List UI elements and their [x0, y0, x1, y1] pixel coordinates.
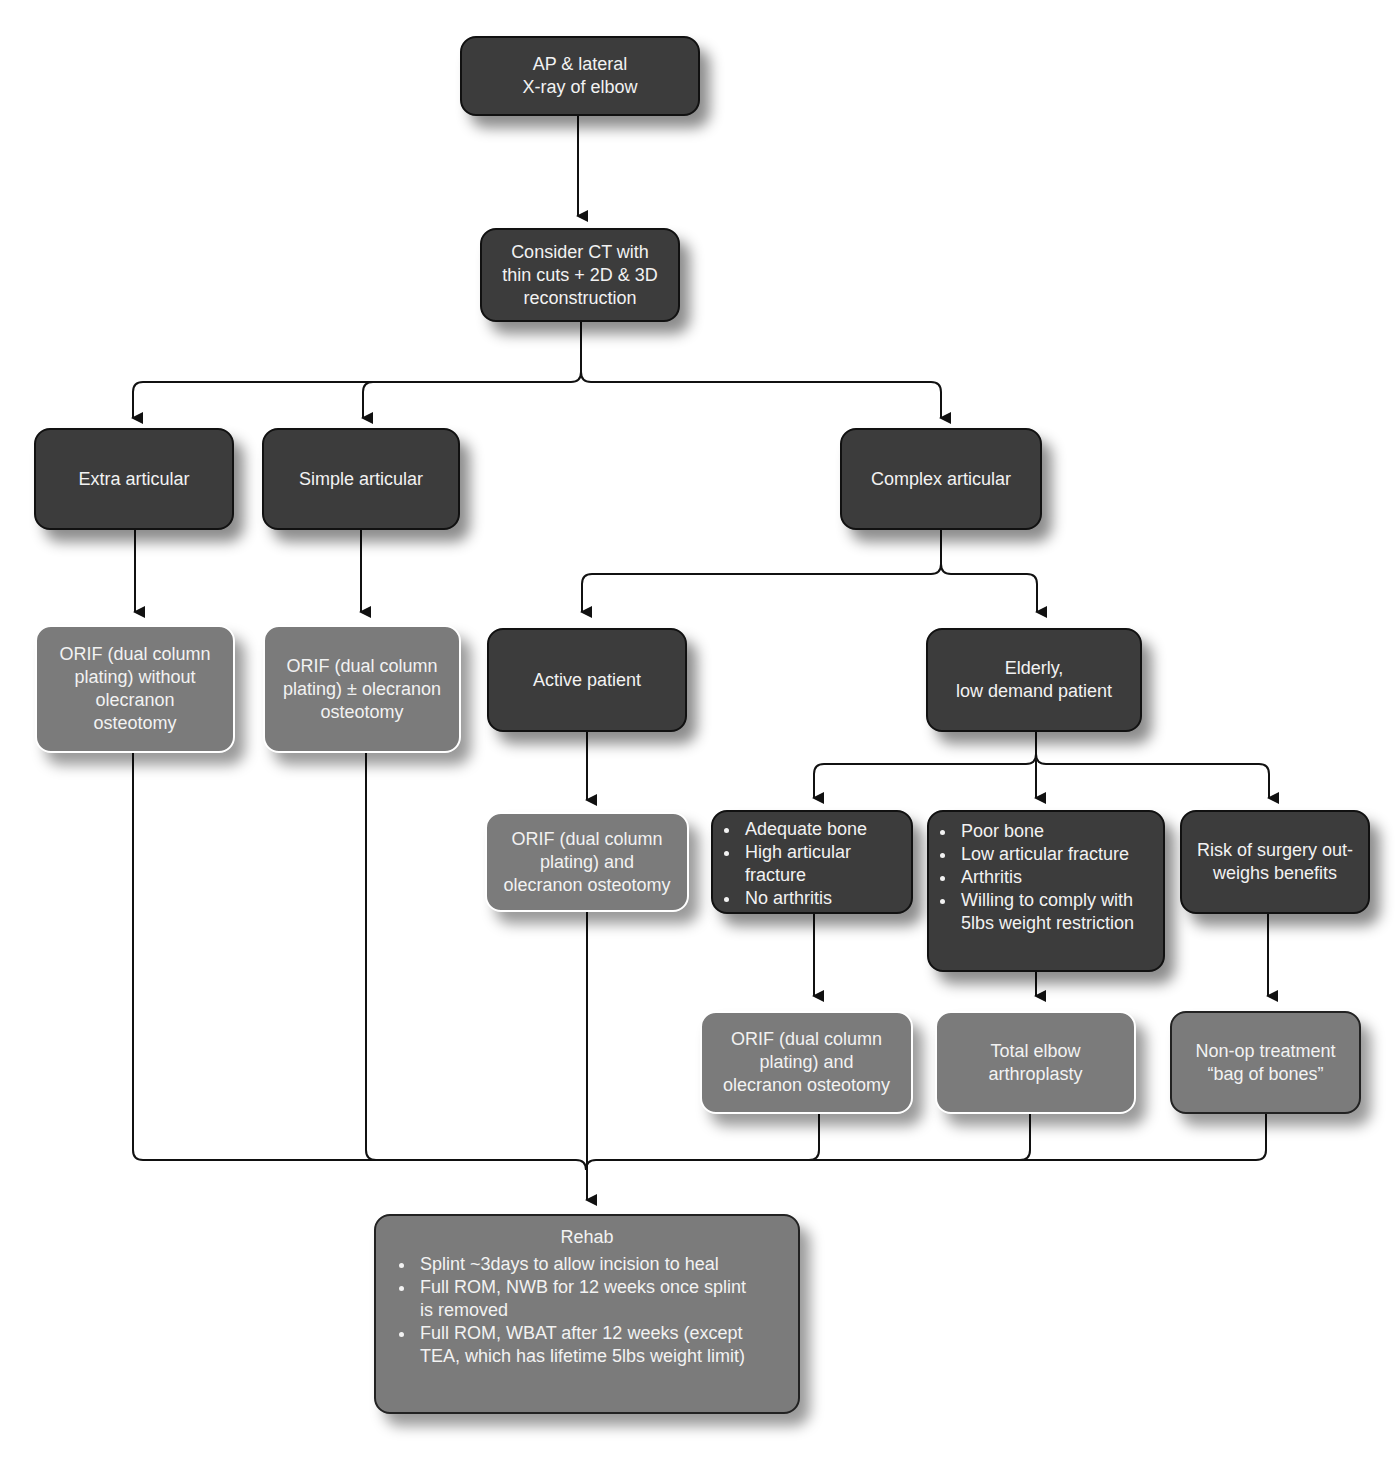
node-orif-and-elderly-line-2: plating) and — [723, 1051, 890, 1074]
list-item: Full ROM, NWB for 12 weeks once splint i… — [416, 1276, 756, 1322]
list-item: Splint ~3days to allow incision to heal — [416, 1253, 756, 1276]
node-orif-without-osteotomy: ORIF (dual column plating) without olecr… — [35, 625, 235, 753]
node-elderly-patient: Elderly, low demand patient — [926, 628, 1142, 732]
node-extra-articular: Extra articular — [34, 428, 234, 530]
node-risk-outweighs: Risk of surgery out- weighs benefits — [1180, 810, 1370, 914]
list-item: Adequate bone — [741, 818, 903, 841]
rehab-title: Rehab — [390, 1226, 784, 1249]
node-risk-line-2: weighs benefits — [1197, 862, 1353, 885]
node-orif-plusminus-line-3: osteotomy — [283, 701, 441, 724]
node-orif-and-osteotomy-active: ORIF (dual column plating) and olecranon… — [485, 812, 689, 912]
node-orif-and-elderly-line-3: olecranon osteotomy — [723, 1074, 890, 1097]
list-item: Poor bone — [957, 820, 1155, 843]
node-orif-without-line-3: olecranon — [59, 689, 210, 712]
node-xray-line-2: X-ray of elbow — [522, 76, 637, 99]
node-active-patient-label: Active patient — [533, 669, 641, 692]
adequate-bone-list: Adequate bone High articular fracture No… — [723, 818, 903, 910]
node-orif-plusminus-line-1: ORIF (dual column — [283, 655, 441, 678]
node-simple-articular: Simple articular — [262, 428, 460, 530]
list-item: High articular fracture — [741, 841, 903, 887]
list-item: Low articular fracture — [957, 843, 1155, 866]
node-complex-articular: Complex articular — [840, 428, 1042, 530]
node-total-elbow-arthroplasty: Total elbow arthroplasty — [935, 1011, 1136, 1114]
node-elderly-line-1: Elderly, — [956, 657, 1112, 680]
node-active-patient: Active patient — [487, 628, 687, 732]
node-risk-line-1: Risk of surgery out- — [1197, 839, 1353, 862]
node-extra-articular-label: Extra articular — [78, 468, 189, 491]
node-orif-and-elderly-line-1: ORIF (dual column — [723, 1028, 890, 1051]
list-item: Full ROM, WBAT after 12 weeks (except TE… — [416, 1322, 756, 1368]
node-orif-and-osteotomy-elderly: ORIF (dual column plating) and olecranon… — [700, 1011, 913, 1114]
node-orif-without-line-2: plating) without — [59, 666, 210, 689]
node-nonop-line-2: “bag of bones” — [1195, 1063, 1335, 1086]
node-rehab: Rehab Splint ~3days to allow incision to… — [374, 1214, 800, 1414]
node-ct-line-1: Consider CT with — [502, 241, 658, 264]
list-item: Arthritis — [957, 866, 1155, 889]
list-item: No arthritis — [741, 887, 903, 910]
node-orif-plusminus-line-2: plating) ± olecranon — [283, 678, 441, 701]
node-ct-line-3: reconstruction — [502, 287, 658, 310]
node-xray: AP & lateral X-ray of elbow — [460, 36, 700, 116]
poor-bone-list: Poor bone Low articular fracture Arthrit… — [939, 820, 1155, 935]
node-orif-without-line-4: osteotomy — [59, 712, 210, 735]
node-orif-and-active-line-3: olecranon osteotomy — [503, 874, 670, 897]
node-adequate-bone: Adequate bone High articular fracture No… — [711, 810, 913, 914]
node-complex-articular-label: Complex articular — [871, 468, 1011, 491]
node-tea-line-1: Total elbow — [988, 1040, 1082, 1063]
node-orif-without-line-1: ORIF (dual column — [59, 643, 210, 666]
node-tea-line-2: arthroplasty — [988, 1063, 1082, 1086]
node-orif-plusminus-osteotomy: ORIF (dual column plating) ± olecranon o… — [263, 625, 461, 753]
node-nonop-treatment: Non-op treatment “bag of bones” — [1170, 1011, 1361, 1114]
rehab-list: Splint ~3days to allow incision to heal … — [398, 1253, 756, 1368]
node-ct-line-2: thin cuts + 2D & 3D — [502, 264, 658, 287]
node-poor-bone: Poor bone Low articular fracture Arthrit… — [927, 810, 1165, 972]
node-nonop-line-1: Non-op treatment — [1195, 1040, 1335, 1063]
node-simple-articular-label: Simple articular — [299, 468, 423, 491]
node-orif-and-active-line-2: plating) and — [503, 851, 670, 874]
node-ct: Consider CT with thin cuts + 2D & 3D rec… — [480, 228, 680, 322]
list-item: Willing to comply with 5lbs weight restr… — [957, 889, 1155, 935]
node-xray-line-1: AP & lateral — [522, 53, 637, 76]
node-orif-and-active-line-1: ORIF (dual column — [503, 828, 670, 851]
node-elderly-line-2: low demand patient — [956, 680, 1112, 703]
